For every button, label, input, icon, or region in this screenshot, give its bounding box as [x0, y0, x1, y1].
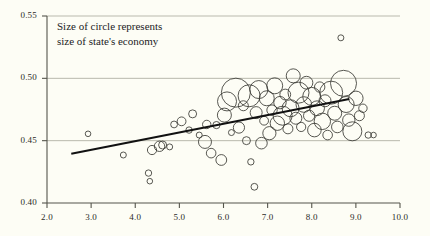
- data-point-circle: [304, 110, 315, 121]
- annotation-line-1: Size of circle represents: [57, 19, 162, 34]
- data-point-circle: [196, 132, 202, 138]
- data-point-circle: [198, 135, 211, 148]
- data-point-circle: [331, 70, 357, 96]
- y-tick-label: 0.45: [3, 135, 37, 145]
- data-point-circle: [189, 110, 197, 118]
- data-point-circle: [216, 155, 227, 166]
- data-point-circle: [171, 121, 178, 128]
- scatter-chart: Size of circle represents size of state'…: [0, 0, 430, 236]
- data-point-circle: [145, 170, 151, 176]
- y-tick-label: 0.40: [3, 197, 37, 207]
- x-tick-label: 3.0: [74, 212, 108, 222]
- data-point-circle: [332, 121, 344, 133]
- annotation-size-note: Size of circle represents size of state'…: [57, 19, 162, 49]
- x-tick-label: 5.0: [162, 212, 196, 222]
- data-point-circle: [280, 89, 291, 100]
- data-point-circle: [308, 123, 322, 137]
- data-point-circle: [323, 130, 333, 140]
- x-tick-label: 10.0: [383, 212, 417, 222]
- data-point-circle: [167, 144, 173, 150]
- data-point-circle: [177, 117, 186, 126]
- data-point-circle: [147, 145, 156, 154]
- y-tick-label: 0.50: [3, 72, 37, 82]
- data-point-circle: [267, 78, 283, 94]
- data-point-circle: [248, 159, 254, 165]
- x-tick-label: 7.0: [251, 212, 285, 222]
- data-point-circle: [343, 114, 355, 126]
- data-point-circle: [238, 85, 260, 107]
- data-point-circle: [228, 130, 234, 136]
- data-markers: [85, 35, 376, 190]
- data-point-circle: [85, 131, 91, 137]
- data-point-circle: [147, 178, 153, 184]
- data-point-circle: [359, 104, 367, 112]
- data-point-circle: [250, 81, 268, 99]
- data-point-circle: [251, 183, 258, 190]
- data-point-circle: [297, 122, 306, 131]
- data-point-circle: [120, 152, 126, 158]
- data-point-circle: [338, 35, 344, 41]
- data-point-circle: [256, 137, 268, 149]
- x-tick-label: 8.0: [295, 212, 329, 222]
- y-tick-label: 0.55: [3, 10, 37, 20]
- data-point-circle: [286, 69, 300, 83]
- data-point-circle: [263, 127, 276, 140]
- data-point-circle: [288, 82, 309, 103]
- x-tick-label: 9.0: [339, 212, 373, 222]
- data-point-circle: [233, 122, 244, 133]
- x-tick-label: 2.0: [30, 212, 64, 222]
- data-point-circle: [283, 124, 293, 134]
- data-point-circle: [206, 148, 216, 158]
- data-point-circle: [221, 78, 250, 107]
- annotation-line-2: size of state's economy: [57, 34, 162, 49]
- data-point-circle: [218, 92, 237, 111]
- x-tick-label: 4.0: [118, 212, 152, 222]
- x-tick-label: 6.0: [207, 212, 241, 222]
- data-point-circle: [343, 122, 362, 141]
- data-point-circle: [260, 116, 269, 125]
